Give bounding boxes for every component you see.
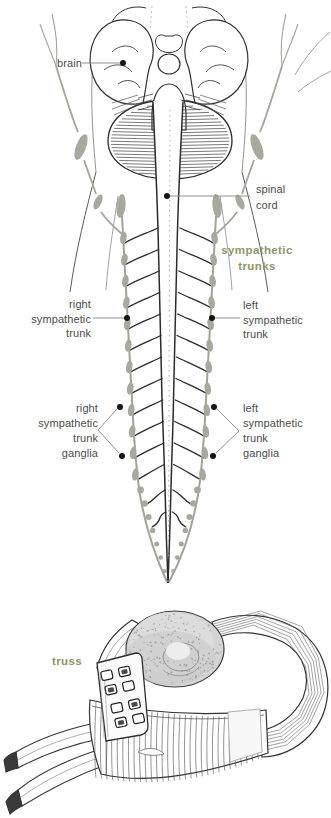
left-trunk-line1: left <box>243 298 303 313</box>
right-ganglia-line3: trunk <box>38 431 98 446</box>
left-ganglia-line1: left <box>243 401 303 416</box>
right-sympathetic-trunk-label: right sympathetic trunk <box>31 297 91 341</box>
right-trunk-line2: sympathetic <box>31 312 91 327</box>
sympathetic-trunks-keyword-line2: trunks <box>201 258 313 274</box>
truss-buckle <box>97 653 148 741</box>
sympathetic-trunks-keyword-line1: sympathetic <box>201 242 313 258</box>
left-trunk-ganglia-label: left sympathetic trunk ganglia <box>243 401 303 461</box>
left-ganglia-line2: sympathetic <box>243 416 303 431</box>
pituitary <box>158 54 180 74</box>
left-ganglia-line3: trunk <box>243 431 303 446</box>
optic-chiasm <box>156 35 183 53</box>
brain-label: brain <box>57 56 82 71</box>
left-trunk-line2: sympathetic <box>243 313 303 328</box>
right-ganglia-line1: right <box>38 401 98 416</box>
spinal-cord-label: spinal cord <box>256 181 285 213</box>
left-trunk-line3: trunk <box>243 327 303 342</box>
right-hemisphere <box>185 20 248 104</box>
left-ganglia-line4: ganglia <box>243 446 303 461</box>
nervous-system-figure <box>40 6 331 583</box>
right-ganglia-line2: sympathetic <box>38 416 98 431</box>
right-trunk-line3: trunk <box>31 326 91 341</box>
right-trunk-line1: right <box>31 297 91 312</box>
left-sympathetic-trunk-label: left sympathetic trunk <box>243 298 303 342</box>
right-ganglia-line4: ganglia <box>38 446 98 461</box>
sympathetic-trunks-keyword: sympathetic trunks <box>201 242 313 274</box>
truss-keyword: truss <box>52 653 82 669</box>
spinal-cord-label-line1: spinal <box>256 181 285 197</box>
spinal-cord-label-line2: cord <box>256 197 285 213</box>
truss-figure <box>4 611 328 814</box>
dictionary-page: brain spinal cord sympathetic trunks rig… <box>0 0 331 818</box>
right-trunk-ganglia-label: right sympathetic trunk ganglia <box>38 401 98 461</box>
spinal-cord-drawing <box>153 96 183 583</box>
